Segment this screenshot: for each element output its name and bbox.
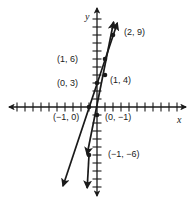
point-label-neg1-neg6: (−1, −6) [108, 150, 140, 159]
graph-canvas [0, 0, 196, 202]
point-0-3 [95, 81, 100, 86]
point-1-4 [103, 73, 108, 78]
point-label-1-6: (1, 6) [57, 55, 78, 64]
point-neg1-0 [87, 105, 92, 110]
point-label-0-3: (0, 3) [57, 79, 78, 88]
line-slope-5-stroke-lower [87, 155, 89, 188]
point-label-neg1-0: (−1, 0) [53, 113, 79, 122]
point-0-neg1 [95, 113, 100, 118]
point-label-1-4: (1, 4) [110, 76, 131, 85]
point-neg1-neg6 [87, 153, 92, 158]
point-label-2-9: (2, 9) [124, 28, 145, 37]
line-slope-5-stroke [87, 22, 114, 155]
coordinate-plane-figure: (2, 9) (1, 6) (1, 4) (0, 3) (−1, 0) (0, … [0, 0, 196, 202]
point-label-0-neg1: (0, −1) [105, 113, 131, 122]
y-axis-label: y [85, 12, 89, 22]
x-axis-label: x [177, 115, 181, 125]
